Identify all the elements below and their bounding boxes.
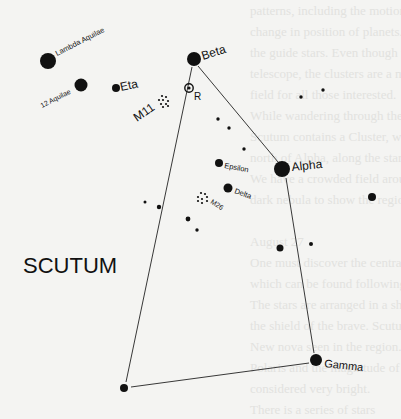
star-chart: Lambda Aquilae 12 Aquilae Eta M11 Beta R… [0,0,401,419]
line-alpha-gamma [286,178,314,353]
label-delta: Delta [233,186,253,201]
label-r: R [194,91,201,102]
constellation-lines [126,66,314,387]
star-south [120,384,128,392]
constellation-title-scutum: SCUTUM [23,253,117,278]
m26-cluster-icon [197,192,208,204]
star-delta [224,184,233,193]
label-alpha: Alpha [291,157,323,174]
star-gamma [310,354,322,366]
label-beta: Beta [200,42,228,63]
label-m11: M11 [131,100,158,125]
star-small [277,245,284,252]
star-alpha [274,161,290,177]
m11-cluster-icon [158,95,169,108]
star-epsilon [215,159,223,167]
label-lambda-aquilae: Lambda Aquilae [54,25,106,57]
star-12-aquilae [75,79,88,92]
line-beta-alpha [198,66,278,162]
star-east [368,193,376,201]
star-lambda-aquilae [40,53,56,69]
label-m26: M26 [209,198,224,211]
label-12-aquilae: 12 Aquilae [39,88,72,110]
label-eta: Eta [119,76,140,94]
label-gamma: Gamma [324,357,365,373]
line-gamma-south [131,363,309,387]
star-r-variable [185,84,193,92]
named-stars [40,52,376,392]
star-beta [187,52,201,66]
label-epsilon: Epsilon [224,161,250,174]
